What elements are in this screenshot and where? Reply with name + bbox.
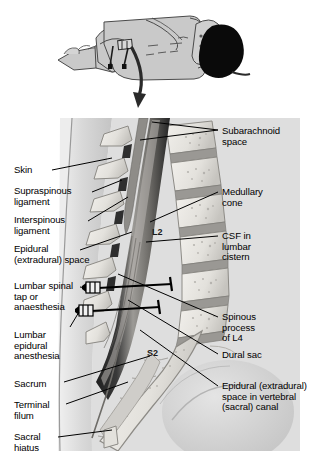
- label-epidural-space-sacral-canal: Epidural (extradural) space in vertebral…: [222, 381, 307, 413]
- sacral-hiatus: [104, 426, 118, 448]
- vertebra-marker-s2: S2: [147, 348, 158, 358]
- label-subarachnoid-space: Subarachnoid space: [222, 126, 280, 147]
- label-skin: Skin: [14, 165, 32, 176]
- label-terminal-filum: Terminal filum: [14, 400, 49, 421]
- label-supraspinous-ligament: Supraspinous ligament: [14, 186, 71, 207]
- label-dural-sac: Dural sac: [222, 350, 262, 361]
- patient-position-inset: [58, 16, 250, 108]
- pillow-edge: [232, 72, 250, 75]
- label-lumbar-epidural-anesthesia: Lumbar epidural anesthesia: [14, 330, 59, 362]
- label-sacral-hiatus: Sacral hiatus: [14, 432, 41, 453]
- label-spinous-process-of-l4: Spinous process of L4: [222, 312, 256, 344]
- label-lumbar-spinal-tap: Lumbar spinal tap or anaesthesia: [14, 281, 73, 313]
- label-interspinous-ligament: Interspinous ligament: [14, 215, 65, 236]
- label-sacrum: Sacrum: [14, 379, 46, 390]
- patient-hair: [199, 25, 244, 78]
- label-medullary-cone: Medullary cone: [222, 187, 263, 208]
- label-epidural-extradural-space: Epidural (extradural) space: [14, 244, 90, 265]
- lumbar-puncture-figure: L2 S2 Skin Supraspinous ligament Intersp…: [0, 0, 331, 463]
- vertebra-marker-l2: L2: [152, 227, 163, 237]
- label-csf-in-lumbar-cistern: CSF in lumbar cistern: [222, 231, 251, 263]
